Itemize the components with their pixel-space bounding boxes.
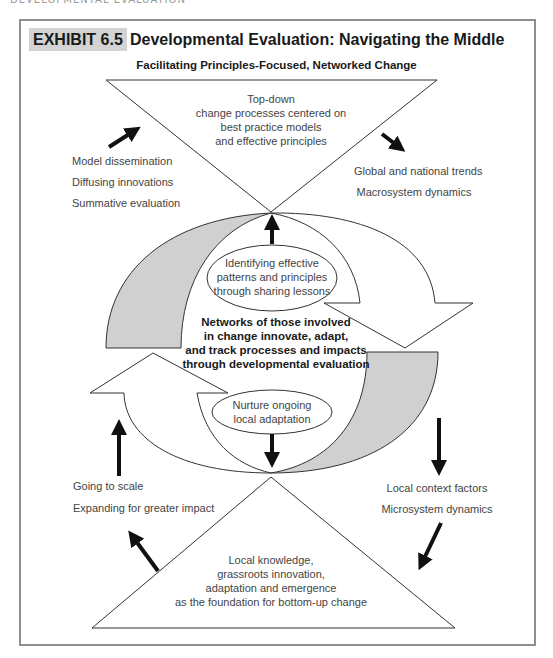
- lower-ellipse-text: Nurture ongoing local adaptation: [222, 398, 322, 426]
- text-line: Top-down: [171, 92, 371, 106]
- text-line: as the foundation for bottom-up change: [161, 595, 381, 609]
- text-line: and track processes and impacts: [171, 343, 381, 357]
- label-global-national-trends: Global and national trends: [354, 164, 474, 178]
- text-line: Nurture ongoing: [222, 398, 322, 412]
- text-line: in change innovate, adapt,: [171, 329, 381, 343]
- text-line: Identifying effective: [212, 256, 332, 270]
- text-line: change processes centered on: [171, 106, 371, 120]
- text-line: patterns and principles: [212, 270, 332, 284]
- arrow-upper-left-diagonal-icon: [109, 131, 134, 147]
- text-line: adaptation and emergence: [161, 581, 381, 595]
- label-diffusing-innovations: Diffusing innovations: [72, 176, 173, 188]
- label-model-dissemination: Model dissemination: [72, 155, 172, 167]
- text-line: Networks of those involved: [171, 315, 381, 329]
- text-line: best practice models: [171, 120, 371, 134]
- text-line: through sharing lessons: [212, 284, 332, 298]
- label-going-to-scale: Going to scale: [73, 480, 143, 492]
- label-expanding-impact: Expanding for greater impact: [73, 502, 214, 514]
- text-line: grassroots innovation,: [161, 567, 381, 581]
- upper-ellipse-text: Identifying effective patterns and princ…: [212, 256, 332, 298]
- arrow-upper-right-diagonal-icon: [382, 134, 399, 147]
- arrow-lower-right-diagonal-icon: [422, 523, 441, 563]
- text-line: and effective principles: [171, 134, 371, 148]
- label-local-context-factors: Local context factors: [377, 481, 497, 495]
- text-line: Local knowledge,: [161, 553, 381, 567]
- label-summative-evaluation: Summative evaluation: [72, 197, 180, 209]
- center-network-text: Networks of those involved in change inn…: [171, 315, 381, 371]
- label-microsystem-dynamics: Microsystem dynamics: [377, 502, 497, 516]
- text-line: local adaptation: [222, 412, 322, 426]
- arrow-lower-left-diagonal-icon: [133, 537, 158, 571]
- top-triangle-text: Top-down change processes centered on be…: [171, 92, 371, 148]
- text-line: through developmental evaluation: [171, 357, 381, 371]
- label-macrosystem-dynamics: Macrosystem dynamics: [354, 185, 474, 199]
- bottom-triangle-text: Local knowledge, grassroots innovation, …: [161, 553, 381, 609]
